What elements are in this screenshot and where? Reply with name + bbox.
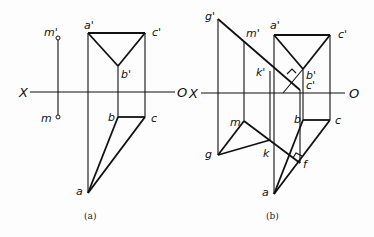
edge-c-prime-b-prime — [118, 33, 145, 66]
axis-label-o-a: O — [177, 85, 187, 100]
label-g-prime: g' — [205, 10, 215, 23]
edge-c-prime-b-prime-b — [303, 35, 330, 69]
axis-label-x-a: X — [18, 85, 29, 100]
label-b-a: b — [108, 111, 115, 124]
edge-a-b-b — [274, 120, 303, 194]
label-m-prime-b: m' — [246, 27, 260, 40]
label-a-prime-b: a' — [270, 19, 280, 32]
label-a-a: a — [76, 185, 83, 198]
projection-diagram: X O m' m a' c' b' b c a (a) X O — [0, 0, 374, 237]
label-m-b: m — [230, 116, 241, 129]
m-point — [56, 115, 60, 119]
edge-a-c — [88, 117, 145, 193]
figure-a: X O m' m a' c' b' b c a (a) — [18, 19, 187, 221]
axis-label-o-b: O — [349, 86, 359, 101]
edge-a-c-b — [274, 120, 330, 194]
edge-a-b — [88, 117, 118, 193]
label-k-prime: k' — [256, 66, 265, 79]
label-c-a: c — [151, 112, 157, 125]
label-c-prime-2-b: c' — [306, 79, 315, 92]
label-g-b: g — [205, 148, 212, 161]
label-b-prime-a: b' — [121, 68, 131, 81]
label-c-prime-b: c' — [338, 28, 347, 41]
caption-b: (b) — [266, 211, 279, 221]
edge-a-prime-b-prime-b — [274, 35, 303, 69]
edge-a-prime-b-prime — [88, 33, 118, 66]
right-angle-mark-front — [287, 69, 296, 74]
label-a-prime-a: a' — [84, 19, 94, 32]
diagram-svg: X O m' m a' c' b' b c a (a) X O — [0, 0, 374, 237]
label-m-prime-a: m' — [44, 26, 58, 39]
right-angle-mark-top — [293, 153, 302, 158]
label-c-prime-a: c' — [152, 26, 161, 39]
figure-b: X O g' m' a' c' k' b' — [188, 10, 359, 221]
label-k-b: k — [263, 147, 270, 160]
label-f-b: f — [303, 158, 309, 171]
label-c-b: c — [335, 114, 341, 127]
caption-a: (a) — [84, 211, 96, 221]
label-m-a: m — [41, 112, 52, 125]
axis-label-x-b: X — [188, 86, 199, 101]
label-a-b: a — [262, 186, 269, 199]
line-m-k-f — [244, 121, 300, 163]
label-b-b: b — [294, 113, 301, 126]
